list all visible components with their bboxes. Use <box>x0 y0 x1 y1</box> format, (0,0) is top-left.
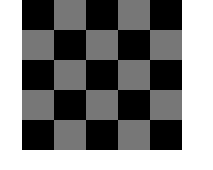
board-cell-light <box>22 90 54 120</box>
board-cell-dark <box>86 0 118 30</box>
board-cell-light <box>118 60 150 90</box>
board-cell-light <box>118 0 150 30</box>
board-cell-light <box>54 0 86 30</box>
board-cell-dark <box>86 120 118 150</box>
board-cell-dark <box>22 0 54 30</box>
board-cell-light <box>86 30 118 60</box>
board-cell-light <box>150 90 182 120</box>
checkerboard <box>22 0 182 150</box>
board-cell-light <box>22 30 54 60</box>
board-cell-dark <box>118 30 150 60</box>
board-cell-dark <box>86 60 118 90</box>
board-cell-light <box>86 90 118 120</box>
board-cell-dark <box>54 30 86 60</box>
board-cell-light <box>54 60 86 90</box>
board-cell-dark <box>150 0 182 30</box>
board-cell-light <box>118 120 150 150</box>
board-cell-dark <box>150 120 182 150</box>
board-cell-dark <box>22 60 54 90</box>
board-cell-dark <box>54 90 86 120</box>
board-cell-light <box>150 30 182 60</box>
board-cell-dark <box>118 90 150 120</box>
board-cell-light <box>54 120 86 150</box>
board-cell-dark <box>22 120 54 150</box>
board-cell-dark <box>150 60 182 90</box>
